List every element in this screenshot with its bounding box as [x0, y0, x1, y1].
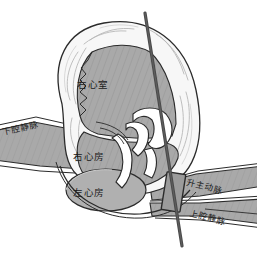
anatomical-figure: 右心室 右心房 左心房 下腔静脉 升主动脉 上腔静脉 [0, 0, 257, 261]
label-right-ventricle: 右心室 [77, 80, 109, 90]
label-right-atrium: 右心房 [73, 152, 105, 162]
label-left-atrium: 左心房 [73, 188, 105, 198]
